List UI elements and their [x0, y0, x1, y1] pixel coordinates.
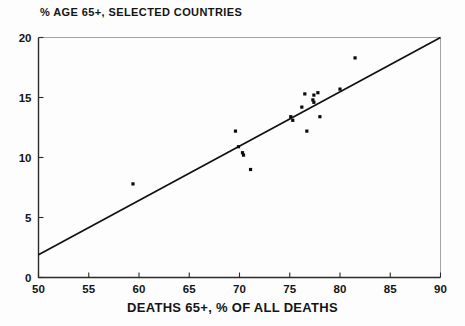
- data-point: [234, 130, 237, 133]
- data-point: [237, 145, 240, 148]
- x-tick-label-75: 75: [283, 283, 296, 295]
- data-point: [303, 92, 306, 95]
- data-point: [316, 91, 319, 94]
- x-tick-label-80: 80: [334, 283, 347, 295]
- data-point: [353, 56, 356, 59]
- x-tick-label-65: 65: [183, 283, 196, 295]
- y-tick-label-10: 10: [19, 152, 32, 164]
- data-point: [300, 106, 303, 109]
- data-point: [289, 115, 292, 118]
- x-tick-label-90: 90: [434, 283, 447, 295]
- data-point: [131, 182, 134, 185]
- y-tick-label-0: 0: [25, 272, 31, 284]
- chart-figure: % AGE 65+, SELECTED COUNTRIES 5055606570…: [0, 0, 465, 326]
- tick-marks-group: [39, 38, 441, 278]
- axis-spine-left-bottom: [39, 38, 441, 278]
- x-tick-label-85: 85: [384, 283, 397, 295]
- y-tick-label-5: 5: [25, 212, 32, 224]
- data-point: [312, 94, 315, 97]
- y-tick-label-15: 15: [19, 92, 32, 104]
- x-axis-label: DEATHS 65+, % OF ALL DEATHS: [0, 300, 465, 315]
- data-point: [318, 115, 321, 118]
- y-tick-labels-group: 05101520: [19, 32, 32, 284]
- x-tick-label-70: 70: [233, 283, 246, 295]
- data-point: [291, 119, 294, 122]
- data-point: [242, 154, 245, 157]
- x-tick-label-50: 50: [32, 283, 45, 295]
- data-points-group: [131, 56, 356, 185]
- data-point: [249, 168, 252, 171]
- x-tick-label-55: 55: [82, 283, 95, 295]
- scatter-plot-canvas: 505560657075808590 05101520: [0, 0, 465, 326]
- x-tick-label-60: 60: [133, 283, 146, 295]
- y-tick-label-20: 20: [19, 32, 32, 44]
- axes-group: [39, 38, 441, 278]
- x-tick-labels-group: 505560657075808590: [32, 283, 447, 295]
- data-point: [305, 130, 308, 133]
- data-point: [312, 101, 315, 104]
- data-point: [338, 88, 341, 91]
